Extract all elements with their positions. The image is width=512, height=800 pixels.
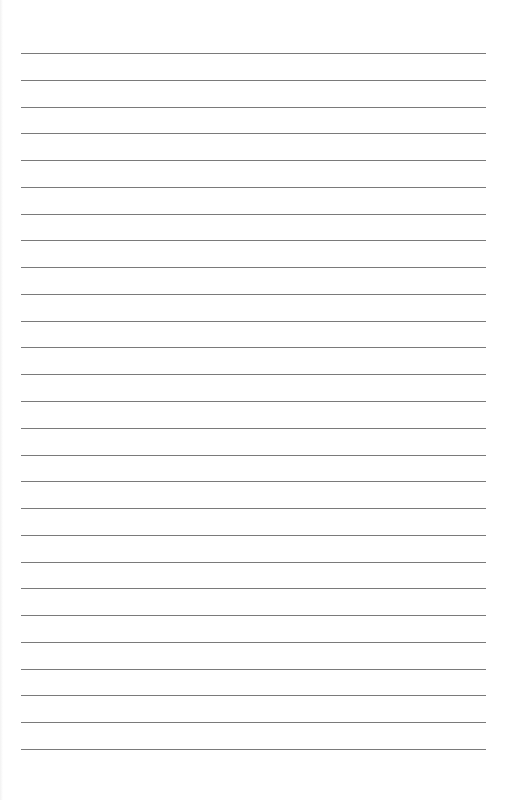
ruled-line [21, 187, 486, 188]
ruled-line [21, 321, 486, 322]
ruled-line [21, 240, 486, 241]
ruled-line [21, 588, 486, 589]
ruled-line [21, 749, 486, 750]
ruled-line [21, 428, 486, 429]
ruled-line [21, 80, 486, 81]
ruled-line [21, 267, 486, 268]
ruled-line [21, 455, 486, 456]
ruled-line [21, 695, 486, 696]
ruled-line [21, 160, 486, 161]
ruled-line [21, 642, 486, 643]
ruled-line [21, 107, 486, 108]
ruled-line [21, 53, 486, 54]
ruled-line [21, 347, 486, 348]
ruled-line [21, 722, 486, 723]
ruled-line [21, 669, 486, 670]
ruled-line [21, 562, 486, 563]
ruled-line [21, 294, 486, 295]
ruled-line [21, 535, 486, 536]
ruled-line [21, 481, 486, 482]
ruled-line [21, 615, 486, 616]
ruled-line [21, 508, 486, 509]
ruled-line [21, 133, 486, 134]
ruled-line [21, 401, 486, 402]
ruled-line [21, 214, 486, 215]
page-edge-shadow [0, 0, 3, 800]
ruled-line [21, 374, 486, 375]
